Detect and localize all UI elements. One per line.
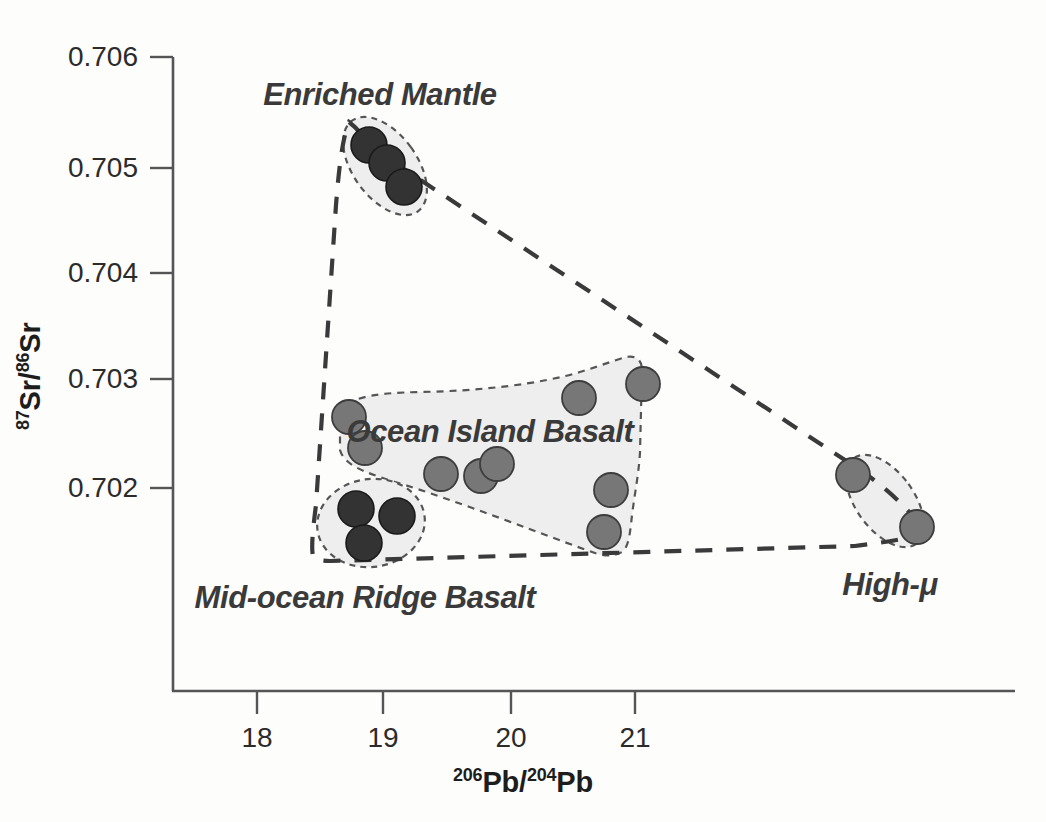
scatter-plot-svg [0, 0, 1046, 822]
field-label-enriched-mantle: Enriched Mantle [263, 77, 496, 113]
x-tick-label-20: 20 [495, 722, 526, 754]
figure-canvas: 0.706 0.705 0.704 0.703 0.702 18 19 20 2… [0, 0, 1046, 822]
y-axis-title-sup-87: 87 [13, 410, 33, 430]
data-point [594, 473, 628, 507]
data-point [480, 447, 514, 481]
x-tick-label-18: 18 [241, 722, 272, 754]
y-axis-ticks [150, 57, 173, 488]
data-point [562, 381, 596, 415]
x-axis-title: 206Pb/204Pb [453, 766, 593, 799]
x-tick-label-21: 21 [619, 722, 650, 754]
x-axis-title-base-pb2: Pb [556, 766, 593, 798]
field-label-ocean-island-basalt: Ocean Island Basalt [346, 414, 633, 450]
y-tick-label-0705: 0.705 [18, 152, 138, 184]
data-point [424, 457, 458, 491]
data-point [626, 367, 660, 401]
data-point [386, 169, 422, 205]
data-point [587, 515, 621, 549]
field-label-mid-ocean-ridge-basalt: Mid-ocean Ridge Basalt [195, 580, 536, 616]
y-axis-title-base-sr2: Sr [14, 322, 46, 352]
data-point [900, 510, 934, 544]
data-point [338, 491, 374, 527]
x-tick-label-19: 19 [367, 722, 398, 754]
data-point [379, 498, 415, 534]
data-point [836, 458, 870, 492]
y-tick-label-0702: 0.702 [18, 472, 138, 504]
y-tick-label-0706: 0.706 [18, 41, 138, 73]
x-axis-ticks [257, 691, 635, 714]
y-tick-label-0704: 0.704 [18, 257, 138, 289]
x-axis-title-base-pb: Pb/ [482, 766, 527, 798]
field-label-high-mu: High-μ [842, 567, 938, 603]
y-axis-title-base-sr: Sr/ [14, 372, 46, 410]
data-point [346, 525, 382, 561]
y-axis-title-sup-86: 86 [13, 353, 33, 373]
y-axis-title: 87Sr/86Sr [14, 322, 47, 430]
x-axis-title-sup-204: 204 [527, 765, 556, 785]
x-axis-title-sup-206: 206 [453, 765, 482, 785]
